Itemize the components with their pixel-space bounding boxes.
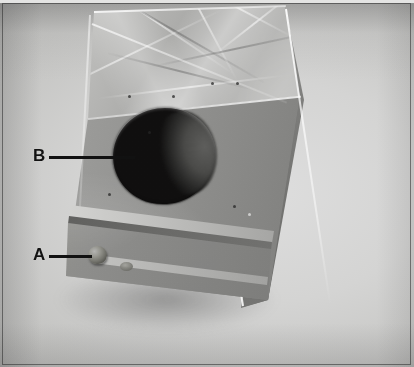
surface-speck [128,95,131,98]
panel-stud [120,262,133,271]
surface-speck [236,82,239,85]
surface-speck [233,205,236,208]
surface-speck [172,95,175,98]
callout-b-label: B [33,147,45,164]
callout-a-label: A [33,246,45,263]
wedge-enclosure [0,0,414,367]
callout-b-leader-line [49,156,135,159]
surface-speck [148,131,151,134]
surface-speck [211,82,214,85]
plate-top-margin [0,0,414,3]
photograph: B A [0,0,414,367]
callout-a-leader-line [49,255,92,258]
surface-speck [108,193,111,196]
surface-speck [248,213,251,216]
screenshot-root: B A [0,0,414,367]
